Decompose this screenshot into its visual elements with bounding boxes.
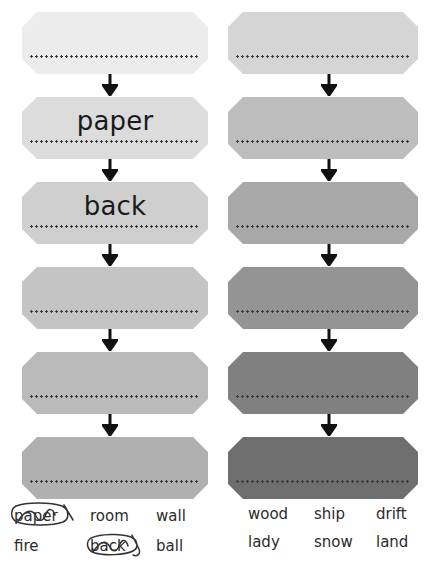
perforation-line — [236, 140, 410, 143]
card-right-1[interactable] — [228, 12, 418, 74]
word-cell[interactable]: drift — [376, 505, 434, 523]
word-cell[interactable]: wood — [248, 505, 314, 523]
card-right-6-label — [228, 445, 418, 478]
word-lists: paper room wall fire — [0, 500, 438, 568]
word-text: wall — [156, 507, 186, 525]
arrow-down-icon — [0, 414, 219, 436]
card-slot-right-4 — [219, 267, 438, 329]
word-list-right: wood ship drift lady snow land — [248, 500, 434, 568]
arrow-down-icon — [219, 329, 438, 351]
card-stack-left: paper back — [0, 0, 219, 498]
card-slot-right-5 — [219, 352, 438, 414]
card-slot-left-1 — [0, 12, 219, 74]
card-slot-left-5 — [0, 352, 219, 414]
card-right-3-label — [228, 190, 418, 223]
column-left: paper back — [0, 0, 219, 500]
card-left-6-label — [22, 445, 208, 478]
card-slot-right-6 — [219, 437, 438, 499]
arrow-down-icon — [219, 414, 438, 436]
word-cell[interactable]: back — [90, 537, 156, 555]
perforation-line — [236, 480, 410, 483]
card-slot-right-1 — [219, 12, 438, 74]
arrow-down-icon — [219, 74, 438, 96]
card-slot-left-2: paper — [0, 97, 219, 159]
arrow-down-icon — [219, 244, 438, 266]
word-cell[interactable]: room — [90, 507, 156, 525]
perforation-line — [236, 225, 410, 228]
perforation-line — [30, 480, 200, 483]
word-text: back — [90, 537, 126, 555]
word-cell[interactable]: land — [376, 533, 434, 551]
word-cell[interactable]: lady — [248, 533, 314, 551]
card-right-2[interactable] — [228, 97, 418, 159]
word-cell[interactable]: wall — [156, 507, 214, 525]
perforation-line — [30, 310, 200, 313]
card-left-3[interactable]: back — [22, 182, 208, 244]
card-left-4-label — [22, 275, 208, 308]
card-left-5-label — [22, 360, 208, 393]
card-left-5[interactable] — [22, 352, 208, 414]
word-text: drift — [376, 505, 407, 523]
card-left-2-label: paper — [22, 105, 208, 138]
perforation-line — [236, 55, 410, 58]
word-row: lady snow land — [248, 528, 434, 556]
arrow-down-icon — [219, 159, 438, 181]
word-text: fire — [14, 537, 39, 555]
word-row: paper room wall — [14, 500, 214, 530]
arrow-down-icon — [0, 74, 219, 96]
card-right-4[interactable] — [228, 267, 418, 329]
word-cell[interactable]: fire — [14, 537, 90, 555]
word-cell[interactable]: snow — [314, 533, 376, 551]
word-row: fire back ball — [14, 530, 214, 560]
word-text: snow — [314, 533, 353, 551]
arrow-down-icon — [0, 329, 219, 351]
card-right-6[interactable] — [228, 437, 418, 499]
word-cell[interactable]: paper — [14, 507, 90, 525]
card-slot-left-3: back — [0, 182, 219, 244]
card-stack-right — [219, 0, 438, 498]
word-text: paper — [14, 507, 58, 525]
card-right-2-label — [228, 105, 418, 138]
perforation-line — [30, 55, 200, 58]
card-slot-right-3 — [219, 182, 438, 244]
word-cell[interactable]: ship — [314, 505, 376, 523]
word-text: room — [90, 507, 129, 525]
perforation-line — [30, 140, 200, 143]
card-right-1-label — [228, 20, 418, 53]
card-left-6[interactable] — [22, 437, 208, 499]
card-left-1-label — [22, 20, 208, 53]
word-list-left: paper room wall fire — [14, 500, 214, 568]
figure-canvas: paper back — [0, 0, 438, 568]
card-left-1[interactable] — [22, 12, 208, 74]
column-right — [219, 0, 438, 500]
word-text: lady — [248, 533, 280, 551]
perforation-line — [236, 395, 410, 398]
card-right-5-label — [228, 360, 418, 393]
word-text: ship — [314, 505, 345, 523]
word-text: land — [376, 533, 408, 551]
card-right-3[interactable] — [228, 182, 418, 244]
card-left-3-label: back — [22, 190, 208, 223]
word-text: wood — [248, 505, 288, 523]
perforation-line — [30, 395, 200, 398]
card-slot-right-2 — [219, 97, 438, 159]
card-columns: paper back — [0, 0, 438, 500]
word-text: ball — [156, 537, 183, 555]
card-left-2[interactable]: paper — [22, 97, 208, 159]
card-slot-left-4 — [0, 267, 219, 329]
card-right-4-label — [228, 275, 418, 308]
perforation-line — [236, 310, 410, 313]
arrow-down-icon — [0, 159, 219, 181]
word-cell[interactable]: ball — [156, 537, 214, 555]
perforation-line — [30, 225, 200, 228]
card-right-5[interactable] — [228, 352, 418, 414]
card-left-4[interactable] — [22, 267, 208, 329]
card-slot-left-6 — [0, 437, 219, 499]
arrow-down-icon — [0, 244, 219, 266]
word-row: wood ship drift — [248, 500, 434, 528]
